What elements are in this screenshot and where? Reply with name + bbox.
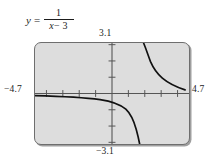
- y-max-label: 3.1: [99, 28, 111, 38]
- fraction-numerator: 1: [53, 8, 64, 19]
- equation-equals-sign: =: [34, 14, 40, 26]
- denominator-operation: − 3: [54, 20, 68, 31]
- graph-window: [34, 42, 190, 145]
- fraction-denominator: x− 3: [47, 20, 69, 31]
- x-max-label: 4.7: [192, 84, 204, 94]
- plot-canvas: [35, 43, 189, 144]
- equation-caption: y = 1 x− 3: [26, 8, 74, 31]
- curve-left-branch: [35, 96, 140, 144]
- curve-right-branch: [144, 43, 185, 90]
- y-min-label: −3.1: [96, 146, 114, 156]
- x-min-label: −4.7: [4, 84, 22, 94]
- equation-lhs: y: [26, 14, 31, 26]
- graph-frame: [34, 42, 190, 145]
- graphing-calculator-figure: y = 1 x− 3: [0, 0, 217, 165]
- equation-fraction: 1 x− 3: [44, 8, 74, 31]
